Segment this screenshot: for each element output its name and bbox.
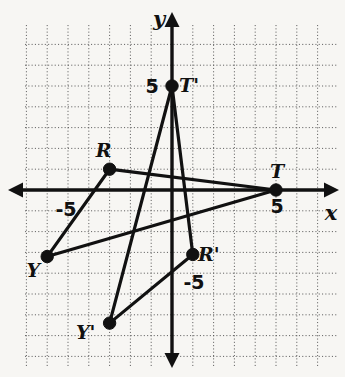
coordinate-plane-figure: 5-55-5 RYTT'R'Y' yx (0, 0, 345, 377)
point-label-Yp: Y' (76, 321, 95, 343)
x-axis-name-label: x (324, 200, 338, 225)
tick-label-x-neg5: -5 (55, 198, 76, 220)
graph-canvas: 5-55-5 RYTT'R'Y' yx (0, 0, 345, 377)
vertex-dot-Y (41, 250, 53, 262)
y-axis-name-label: y (152, 6, 167, 31)
tick-label-y-neg5: -5 (183, 271, 204, 293)
point-label-Tp: T' (179, 74, 199, 96)
point-label-R: R (95, 139, 112, 161)
point-label-T: T (270, 160, 286, 182)
tick-label-x-5: 5 (270, 195, 283, 217)
vertex-dot-R (103, 163, 115, 175)
tick-label-y-5: 5 (145, 75, 158, 97)
point-label-Rp: R' (197, 243, 220, 265)
vertex-dot-Tp (166, 80, 178, 92)
vertex-dot-Yp (103, 317, 115, 329)
